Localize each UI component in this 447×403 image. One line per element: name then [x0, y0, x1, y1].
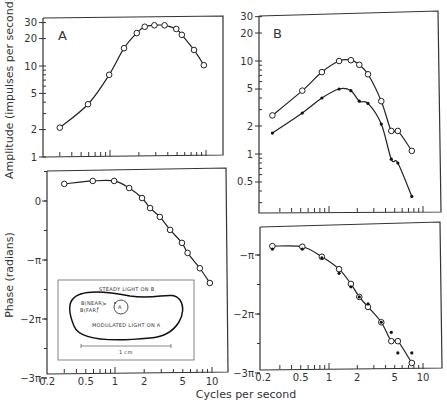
data-point-open — [395, 128, 401, 134]
panel-a-letter: A — [58, 28, 67, 43]
figure-canvas: A 125102030 0.20.5125100−π−2π−3π A STEAD… — [0, 0, 447, 403]
data-point-open — [85, 101, 91, 107]
x-tick-label: 0.5 — [78, 376, 94, 387]
data-point-filled — [396, 161, 399, 164]
data-point-filled — [380, 122, 383, 125]
data-point-open — [270, 113, 276, 119]
data-point-open — [157, 214, 163, 220]
data-point-open — [121, 45, 127, 51]
y-tick-label: 0.5 — [237, 176, 253, 187]
panel-b-phase-axes: 0.20.512510−π−2π−3π — [233, 250, 429, 384]
fitted-curve — [272, 60, 411, 151]
x-tick-label: 10 — [417, 372, 430, 383]
data-point-filled — [410, 195, 413, 198]
data-point-open — [409, 148, 415, 154]
panel-a-amplitude-series — [57, 23, 207, 131]
inset-diagram: A STEADY LIGHT ON B B(NEAR) B(FAR) MODUL… — [58, 280, 194, 360]
data-point-filled — [358, 100, 361, 103]
data-point-open — [378, 98, 384, 104]
panel-a-amplitude-axes: 125102030 — [24, 17, 206, 162]
y-tick-label: −π — [240, 250, 254, 261]
y-tick-label: 5 — [247, 83, 253, 94]
spot-a-label: A — [118, 304, 122, 310]
data-point-open — [300, 88, 306, 94]
steady-light-label: STEADY LIGHT ON B — [99, 286, 155, 292]
data-point-open — [388, 128, 394, 134]
x-tick-label: 10 — [206, 376, 219, 387]
data-point-open — [409, 360, 415, 366]
data-point-open — [126, 185, 132, 191]
data-point-filled — [301, 111, 304, 114]
data-point-open — [142, 24, 148, 30]
panel-b-letter: B — [273, 26, 282, 41]
x-tick-label: 5 — [180, 376, 186, 387]
spot-a-center-dot — [114, 302, 116, 304]
y-tick-label: 0 — [35, 196, 41, 207]
data-point-filled — [390, 331, 393, 334]
panel-b-amplitude-series — [270, 57, 415, 198]
panel-b-amplitude-frame — [259, 11, 441, 213]
data-point-filled — [366, 302, 369, 305]
data-point-filled — [271, 248, 274, 251]
x-tick-label: 2 — [354, 372, 360, 383]
phase-axis-label: Phase (radians) — [3, 232, 16, 318]
panel-b-phase-frame — [260, 222, 442, 370]
y-tick-label: 10 — [24, 61, 37, 72]
data-point-open — [173, 26, 179, 32]
modulated-light-label: MODULATED LIGHT ON A — [92, 322, 161, 328]
data-point-open — [336, 266, 342, 272]
y-tick-label: 1 — [247, 149, 253, 160]
data-point-filled — [358, 295, 361, 298]
data-point-open — [185, 250, 191, 256]
x-tick-label: 5 — [392, 372, 398, 383]
panel-b-amplitude: B 0.5125102030 — [237, 11, 441, 213]
fitted-curve — [60, 25, 204, 128]
data-point-filled — [349, 285, 352, 288]
y-tick-label: 5 — [31, 88, 37, 99]
y-tick-label: 2 — [31, 124, 37, 135]
y-tick-label: 20 — [24, 33, 37, 44]
y-tick-label: 1 — [31, 152, 37, 163]
y-tick-label: −3π — [20, 373, 41, 384]
scale-bar-label: 1 cm — [119, 349, 133, 355]
y-tick-label: 20 — [240, 28, 253, 39]
data-point-filled — [337, 272, 340, 275]
data-point-filled — [320, 96, 323, 99]
data-point-open — [167, 227, 173, 233]
y-tick-label: −3π — [233, 368, 254, 379]
data-point-open — [61, 181, 67, 187]
data-point-open — [147, 205, 153, 211]
y-tick-label: 10 — [240, 56, 253, 67]
panel-a-phase-series — [61, 178, 212, 286]
data-point-open — [197, 265, 203, 271]
data-point-open — [365, 71, 371, 77]
data-point-filled — [410, 351, 413, 354]
data-point-open — [356, 62, 362, 68]
fitted-curve — [64, 180, 210, 283]
fitted-curve — [272, 246, 411, 363]
b-near-label: B(NEAR) — [81, 300, 104, 306]
y-tick-label: −2π — [20, 314, 41, 325]
amplitude-axis-label: Amplitude (impulses per second) — [3, 0, 16, 179]
y-tick-label: 30 — [24, 17, 37, 28]
data-point-open — [388, 338, 394, 344]
y-tick-label: 2 — [247, 121, 253, 132]
x-tick-label: 0.2 — [39, 376, 55, 387]
data-point-filled — [271, 131, 274, 134]
panel-b-amplitude-axes: 0.5125102030 — [237, 11, 423, 212]
data-point-open — [336, 58, 342, 64]
y-tick-label: 30 — [240, 11, 253, 22]
data-point-open — [179, 240, 185, 246]
inset-frame — [58, 280, 194, 360]
data-point-filled — [337, 87, 340, 90]
panel-b-phase: 0.20.512510−π−2π−3π — [233, 222, 442, 383]
y-tick-label: −π — [27, 255, 41, 266]
data-point-open — [319, 69, 325, 75]
data-point-open — [162, 23, 168, 29]
data-point-filled — [320, 256, 323, 259]
x-tick-label: 2 — [141, 376, 147, 387]
data-point-open — [179, 32, 185, 38]
x-axis-label: Cycles per second — [196, 388, 296, 401]
panel-a-amplitude: A 125102030 — [24, 16, 223, 163]
data-point-open — [191, 47, 197, 53]
